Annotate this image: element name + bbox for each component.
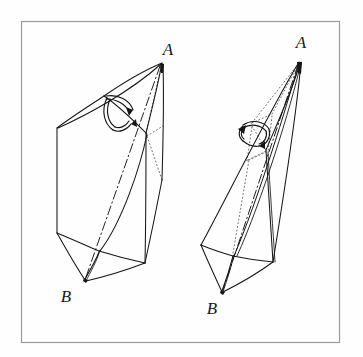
diagram-canvas: A B A B	[0, 0, 363, 357]
label-left-apex-B: B	[61, 287, 72, 306]
label-left-apex-A: A	[162, 40, 174, 59]
label-right-apex-B: B	[207, 299, 218, 318]
label-right-apex-A: A	[295, 33, 307, 52]
figure-svg: A B A B	[0, 0, 363, 357]
page-background	[0, 0, 363, 357]
